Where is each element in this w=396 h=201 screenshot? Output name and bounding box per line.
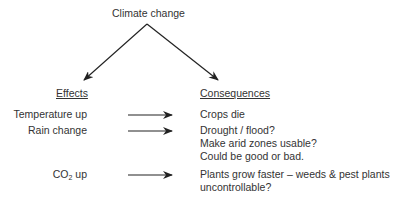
consequence-good-bad: Could be good or bad. <box>200 150 304 163</box>
arrow-to-consequences <box>147 24 218 80</box>
consequence-drought: Drought / flood? <box>200 124 275 137</box>
consequence-crops: Crops die <box>200 108 245 121</box>
arrow-to-effects <box>84 24 147 80</box>
effect-co2: CO2 up <box>53 168 87 181</box>
consequence-plants: Plants grow faster – weeds & pest plants <box>200 168 390 181</box>
effect-rain: Rain change <box>28 124 87 137</box>
effects-header: Effects <box>56 87 88 100</box>
consequence-arid: Make arid zones usable? <box>200 137 317 150</box>
consequence-uncontrollable: uncontrollable? <box>200 181 271 194</box>
consequences-header: Consequences <box>200 87 270 100</box>
effect-temperature: Temperature up <box>13 108 87 121</box>
title: Climate change <box>112 7 185 20</box>
